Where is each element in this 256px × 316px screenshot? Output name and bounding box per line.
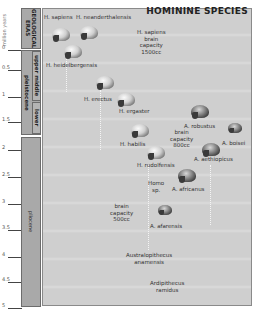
skull-h-neanderthalensis-icon bbox=[80, 26, 98, 39]
lower-label: lower bbox=[32, 102, 41, 134]
tick-mark bbox=[8, 204, 22, 205]
tick-mark bbox=[8, 308, 22, 309]
chart-title: HOMININE SPECIES bbox=[146, 6, 248, 16]
era-pliocene: pliocene bbox=[21, 137, 41, 307]
pliocene-label: pliocene bbox=[28, 211, 34, 232]
skull-h-heidelbergensis-icon bbox=[64, 45, 82, 58]
guide-line bbox=[210, 165, 211, 225]
label-h-sapiens: H. sapiens bbox=[44, 14, 73, 21]
label-h-neanderthalensis: H. neanderthalensis bbox=[76, 14, 131, 21]
label-h-erectus: H. erectus bbox=[84, 96, 112, 103]
label-h-ergaster: H. ergaster bbox=[119, 108, 150, 115]
annotation-ardipithecus-ramidus: Ardipithecus ramidus bbox=[150, 280, 184, 293]
upper-middle-label: upper middle bbox=[32, 51, 41, 101]
label-a-aethiopicus: A. aethiopicus bbox=[194, 156, 233, 163]
label-a-boisei: A. boisei bbox=[222, 140, 245, 147]
annotation-brain-500cc: brain capacity 500cc bbox=[110, 203, 133, 223]
tick-mark bbox=[8, 150, 22, 151]
tick-mark bbox=[8, 177, 22, 178]
label-a-afarensis: A. afarensis bbox=[150, 223, 182, 230]
label-h-habilis: H. habilis bbox=[120, 141, 145, 148]
tick-mark bbox=[8, 122, 22, 123]
label-a-africanus: A. africanus bbox=[172, 186, 205, 193]
skull-h-ergaster-icon bbox=[117, 93, 135, 106]
skull-a-boisei-icon bbox=[228, 123, 242, 133]
skull-h-habilis-icon bbox=[131, 124, 149, 137]
annotation-brain-800cc: brain capacity 800cc bbox=[170, 129, 193, 149]
annotation-homo-sp: Homo sp. bbox=[148, 180, 164, 193]
tick-mark bbox=[8, 230, 22, 231]
era-pleistocene: pleistocene upper middle lower bbox=[21, 50, 41, 135]
skull-a-robustus-icon bbox=[191, 105, 209, 118]
annotation-australopithecus-anamensis: Australopithecus anamensis bbox=[126, 252, 172, 265]
guide-line bbox=[148, 165, 149, 250]
annotation-sapiens-brain: H. sapiens brain capacity 1500cc bbox=[137, 29, 166, 55]
tick-mark bbox=[8, 257, 22, 258]
pleistocene-label: pleistocene bbox=[22, 51, 32, 134]
tick-mark bbox=[8, 50, 22, 51]
label-h-heidelbergensis: H. heidelbergensis bbox=[46, 62, 97, 69]
tick-mark bbox=[8, 70, 22, 71]
label-h-rudolfensis: H. rudolfensis bbox=[137, 162, 175, 169]
skull-a-aethiopicus-icon bbox=[202, 143, 220, 156]
skull-h-sapiens-icon bbox=[52, 28, 70, 41]
skull-a-afarensis-icon bbox=[158, 205, 172, 215]
skull-h-erectus-icon bbox=[96, 76, 114, 89]
skull-a-africanus-icon bbox=[178, 169, 196, 182]
geological-eras-header: GEOLOGICAL ERAS bbox=[21, 8, 41, 49]
tick-mark bbox=[8, 282, 22, 283]
tick-mark bbox=[8, 97, 22, 98]
skull-h-rudolfensis-icon bbox=[147, 146, 165, 159]
